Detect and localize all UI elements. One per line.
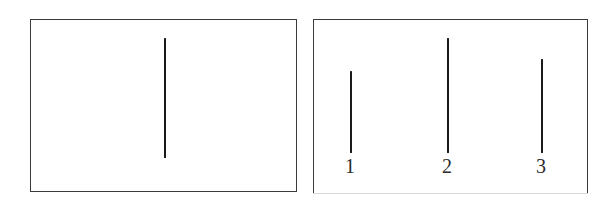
comparison-line-1 xyxy=(350,71,352,153)
comparison-line-3 xyxy=(541,59,543,153)
standard-panel xyxy=(30,19,297,192)
comparison-line-2-label: 2 xyxy=(435,156,459,176)
scan-edge-artifact xyxy=(313,193,588,194)
standard-line xyxy=(164,38,166,158)
comparison-line-2 xyxy=(447,38,449,153)
comparison-line-1-label: 1 xyxy=(338,156,362,176)
comparison-line-3-label: 3 xyxy=(529,156,553,176)
figure-root: 1 2 3 xyxy=(0,0,611,204)
